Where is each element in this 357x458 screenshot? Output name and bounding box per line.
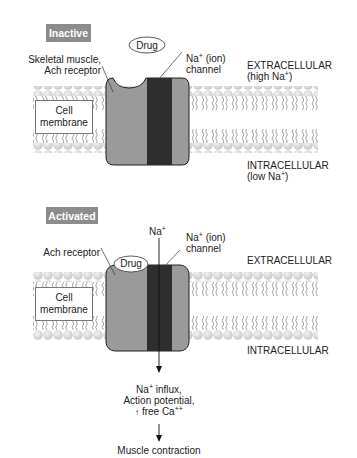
effect-na: Na <box>136 384 149 395</box>
receptor-label-activated: Ach receptor <box>0 247 100 258</box>
channel-label-line2: channel <box>186 64 226 75</box>
drug-label-activated: Drug <box>114 258 148 269</box>
na-channel-activated <box>147 265 172 351</box>
channel-label-ion: (ion) <box>203 53 226 64</box>
channel-label-ion: (ion) <box>203 232 226 243</box>
intracellular-label-inactive: INTRACELLULAR (low Na+) <box>247 160 329 182</box>
channel-label-line2: channel <box>186 243 226 254</box>
ion-label-na: Na <box>149 226 162 237</box>
receptor-label-inactive: Skeletal muscle, Ach receptor <box>0 54 101 76</box>
state-badge-activated: Activated <box>46 207 98 224</box>
receptor-label-line2: Ach receptor <box>0 65 101 76</box>
extracellular-sub-pre: (high Na <box>247 71 285 82</box>
intracellular-label-activated: INTRACELLULAR <box>247 345 329 356</box>
ion-label: Na+ <box>149 226 166 237</box>
effect-ca-sup: ++ <box>175 405 183 412</box>
membrane-label-line1: Cell <box>36 292 92 304</box>
extracellular-label-inactive: EXTRACELLULAR (high Na+) <box>247 60 332 82</box>
extracellular-sub-post: ) <box>289 71 292 82</box>
extracellular-title: EXTRACELLULAR <box>247 60 332 71</box>
channel-label-na: Na <box>186 53 199 64</box>
effect-text: Na+ influx, Action potential, ↑ free Ca+… <box>99 384 219 418</box>
effect-free-ca: free Ca <box>139 406 175 417</box>
channel-label-activated: Na+ (ion) channel <box>186 232 226 254</box>
cell-membrane-label-activated: Cell membrane <box>35 287 93 321</box>
channel-label-inactive: Na+ (ion) channel <box>186 53 226 75</box>
extracellular-label-activated: EXTRACELLULAR <box>247 255 332 266</box>
channel-label-na: Na <box>186 232 199 243</box>
intracellular-title: INTRACELLULAR <box>247 160 329 171</box>
effect-influx: influx, <box>153 384 182 395</box>
intracellular-sub-pre: (low Na <box>247 171 281 182</box>
ion-label-sup: + <box>162 225 166 232</box>
receptor-label-line1: Skeletal muscle, <box>0 54 101 65</box>
intracellular-sub-post: ) <box>285 171 288 182</box>
membrane-label-line2: membrane <box>36 117 92 129</box>
state-badge-inactive: Inactive <box>46 24 91 42</box>
na-channel-inactive <box>147 78 172 165</box>
effect-action-potential: Action potential, <box>99 395 219 406</box>
drug-label-inactive: Drug <box>129 40 165 51</box>
outcome-label: Muscle contraction <box>89 445 229 456</box>
membrane-label-line2: membrane <box>36 304 92 316</box>
cell-membrane-label-inactive: Cell membrane <box>35 100 93 134</box>
membrane-label-line1: Cell <box>36 105 92 117</box>
